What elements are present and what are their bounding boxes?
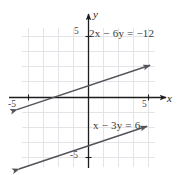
x-axis-label: x [167,92,172,104]
equation-label-top: 2x − 6y = −12 [89,27,154,39]
line-equation-bottom [19,126,147,169]
y-axis-label: y [93,8,98,20]
equation-label-bottom: x − 3y = 6 [93,119,140,131]
graph-figure: y x 5 -5 -5 5 2x − 6y = −12 x − 3y = 6 [0,0,181,175]
tick-label-y-positive: 5 [74,26,79,36]
tick-label-y-negative: -5 [70,150,78,160]
line-equation-top [17,65,150,109]
tick-label-x-positive: 5 [142,99,147,109]
tick-label-x-negative: -5 [8,99,16,109]
